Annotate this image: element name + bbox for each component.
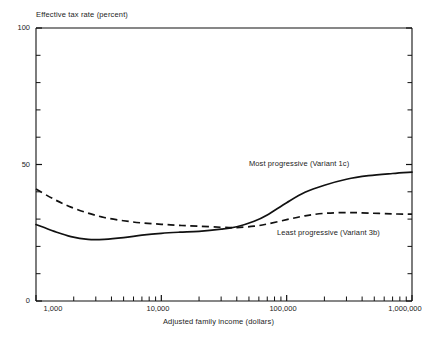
axis-frame (36, 28, 412, 301)
chart-figure: Effective tax rate (percent) 100 50 0 1,… (0, 0, 437, 339)
series-line-most-progressive (36, 172, 412, 239)
plot-area (0, 0, 437, 339)
series-line-least-progressive (36, 189, 412, 228)
y-axis-ticks (36, 28, 412, 301)
x-axis-ticks (36, 295, 412, 301)
